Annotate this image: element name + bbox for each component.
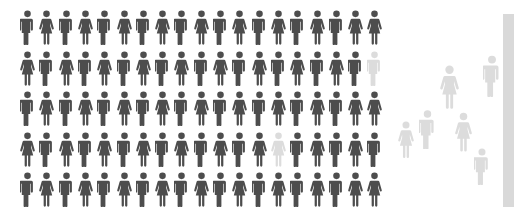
scatter-figure-male-6: [483, 55, 501, 97]
pictogram-canvas: [0, 0, 516, 221]
right-edge-bar: [503, 14, 514, 207]
pictogram-scatter-group: [0, 0, 516, 221]
scatter-figure-male-2: [419, 110, 436, 149]
scatter-figure-male-5: [474, 148, 490, 185]
scatter-figure-female-4: [455, 112, 472, 152]
scatter-figure-female-3: [440, 65, 459, 109]
scatter-figure-female-1: [398, 121, 414, 158]
